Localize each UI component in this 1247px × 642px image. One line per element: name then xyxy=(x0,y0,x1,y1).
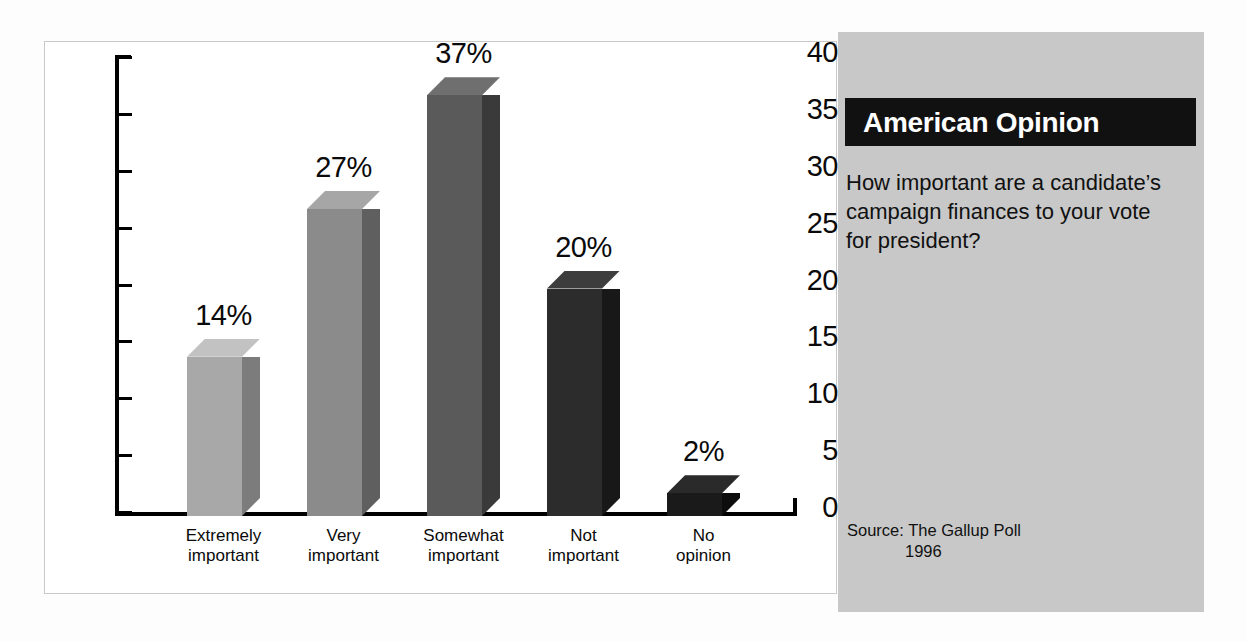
bar-top-face-wrap xyxy=(667,475,740,493)
bar-side-face xyxy=(242,357,260,516)
category-label: Extremelyimportant xyxy=(159,526,288,566)
y-axis-tick xyxy=(119,227,132,230)
y-axis-tick-label: 25 xyxy=(776,207,838,240)
chart-panel: 4035302520151050 14%27%37%20%2% Extremel… xyxy=(44,41,837,594)
y-axis-tick-label: 30 xyxy=(776,150,838,183)
bar-top-face-wrap xyxy=(187,339,260,357)
y-axis-tick xyxy=(119,340,132,343)
bar-front-face xyxy=(307,209,362,516)
source-year: 1996 xyxy=(847,541,1187,562)
category-label-line: Not xyxy=(519,526,648,546)
bar-top-face xyxy=(307,191,380,209)
category-label: Notimportant xyxy=(519,526,648,566)
category-label: Veryimportant xyxy=(279,526,408,566)
bar-front-face xyxy=(667,493,722,516)
bar-front-face xyxy=(427,95,482,516)
category-label: Noopinion xyxy=(639,526,768,566)
bar-chart-plot: 4035302520151050 14%27%37%20%2% Extremel… xyxy=(45,42,838,595)
y-axis-tick-label: 10 xyxy=(776,377,838,410)
y-axis-tick xyxy=(119,56,132,59)
y-axis-tick-label: 35 xyxy=(776,93,838,126)
y-axis-tick xyxy=(119,284,132,287)
sidebar-title: American Opinion xyxy=(863,107,1099,139)
bar-top-face xyxy=(547,271,620,289)
y-axis-tick-label: 20 xyxy=(776,264,838,297)
y-axis-tick-label: 0 xyxy=(776,491,838,524)
category-label-line: important xyxy=(279,546,408,566)
y-axis-tick xyxy=(119,397,132,400)
bar-value-label: 2% xyxy=(647,435,760,468)
bar-top-face-wrap xyxy=(427,77,500,95)
category-label-line: important xyxy=(159,546,288,566)
bar-value-label: 27% xyxy=(287,151,400,184)
y-axis-tick-label: 15 xyxy=(776,320,838,353)
bar xyxy=(187,357,242,516)
y-axis-tick xyxy=(119,454,132,457)
bar xyxy=(307,209,362,516)
bar xyxy=(667,493,722,516)
category-label-line: important xyxy=(519,546,648,566)
bar-value-label: 37% xyxy=(407,37,520,70)
bar-front-face xyxy=(187,357,242,516)
y-axis-tick xyxy=(119,113,132,116)
category-label-line: Very xyxy=(279,526,408,546)
category-label-line: Somewhat xyxy=(399,526,528,546)
bar-top-face-wrap xyxy=(307,191,380,209)
category-label-line: opinion xyxy=(639,546,768,566)
y-axis-tick xyxy=(119,170,132,173)
bar-value-label: 20% xyxy=(527,231,640,264)
category-label: Somewhatimportant xyxy=(399,526,528,566)
american-opinion-sidebar: American Opinion How important are a can… xyxy=(838,32,1204,612)
category-label-line: important xyxy=(399,546,528,566)
category-label-line: Extremely xyxy=(159,526,288,546)
bar-value-label: 14% xyxy=(167,299,280,332)
source-label: Source: The Gallup Poll xyxy=(847,521,1021,539)
y-axis-tick xyxy=(119,511,132,514)
bar xyxy=(427,95,482,516)
bar-front-face xyxy=(547,289,602,517)
y-axis-tick-label: 40 xyxy=(776,36,838,69)
bar-top-face xyxy=(187,339,260,357)
poll-question-text: How important are a candidate’s campaign… xyxy=(846,168,1176,255)
bar xyxy=(547,289,602,517)
bar-side-face xyxy=(482,95,500,516)
sidebar-header-bar: American Opinion xyxy=(845,98,1196,146)
poll-graphic: 4035302520151050 14%27%37%20%2% Extremel… xyxy=(0,0,1247,642)
bar-side-face xyxy=(362,209,380,516)
bar-top-face xyxy=(667,475,740,493)
source-attribution: Source: The Gallup Poll 1996 xyxy=(847,520,1187,562)
category-label-line: No xyxy=(639,526,768,546)
y-axis-tick-label: 5 xyxy=(776,434,838,467)
bar-side-face xyxy=(602,289,620,517)
bar-top-face xyxy=(427,77,500,95)
bar-top-face-wrap xyxy=(547,271,620,289)
